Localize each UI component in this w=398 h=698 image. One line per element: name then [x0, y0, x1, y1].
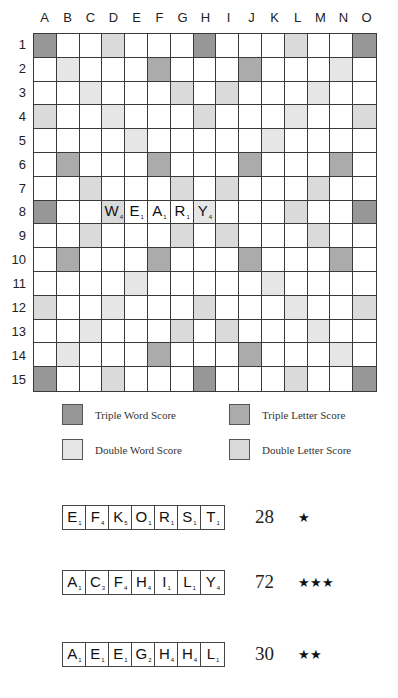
board-square-c4[interactable] [80, 105, 103, 129]
board-square-c3[interactable] [80, 82, 103, 106]
board-square-h4[interactable] [194, 105, 217, 129]
board-square-m2[interactable] [308, 58, 331, 82]
board-square-f12[interactable] [148, 296, 171, 320]
board-square-e10[interactable] [125, 248, 148, 272]
board-square-l7[interactable] [285, 177, 308, 201]
board-square-b1[interactable] [57, 34, 80, 58]
board-square-f2[interactable] [148, 58, 171, 82]
board-square-l2[interactable] [285, 58, 308, 82]
rack-tile[interactable]: T1 [201, 506, 224, 529]
board-square-k12[interactable] [262, 296, 285, 320]
board-square-j13[interactable] [239, 320, 262, 344]
board-square-m12[interactable] [308, 296, 331, 320]
board-square-m1[interactable] [308, 34, 331, 58]
board-square-l3[interactable] [285, 82, 308, 106]
board-square-d1[interactable] [102, 34, 125, 58]
board-square-d15[interactable] [102, 367, 125, 391]
board-square-k14[interactable] [262, 343, 285, 367]
board-square-e1[interactable] [125, 34, 148, 58]
board-square-n15[interactable] [330, 367, 353, 391]
board-square-d3[interactable] [102, 82, 125, 106]
rack-tile[interactable]: L1 [178, 571, 201, 594]
board-square-a5[interactable] [34, 129, 57, 153]
board-square-d4[interactable] [102, 105, 125, 129]
board-square-f13[interactable] [148, 320, 171, 344]
board-square-m3[interactable] [308, 82, 331, 106]
board-square-c13[interactable] [80, 320, 103, 344]
rack-tile[interactable]: H4 [178, 643, 201, 666]
rack-tile[interactable]: E1 [86, 643, 109, 666]
board-square-k9[interactable] [262, 224, 285, 248]
board-square-i6[interactable] [216, 153, 239, 177]
board-square-d9[interactable] [102, 224, 125, 248]
board-square-i7[interactable] [216, 177, 239, 201]
board-square-j1[interactable] [239, 34, 262, 58]
board-square-k1[interactable] [262, 34, 285, 58]
board-square-j11[interactable] [239, 272, 262, 296]
board-square-e2[interactable] [125, 58, 148, 82]
board-square-h8[interactable]: Y4 [194, 201, 217, 225]
rack-tile[interactable]: A1 [63, 643, 86, 666]
board-square-o5[interactable] [353, 129, 376, 153]
board-square-g2[interactable] [171, 58, 194, 82]
board-square-n13[interactable] [330, 320, 353, 344]
board-square-i13[interactable] [216, 320, 239, 344]
board-square-f6[interactable] [148, 153, 171, 177]
board-square-g7[interactable] [171, 177, 194, 201]
rack-tile[interactable]: E1 [63, 506, 86, 529]
board-square-a7[interactable] [34, 177, 57, 201]
board-square-g15[interactable] [171, 367, 194, 391]
board-square-j15[interactable] [239, 367, 262, 391]
rack-tile[interactable]: H4 [132, 571, 155, 594]
board-square-a11[interactable] [34, 272, 57, 296]
board-square-a10[interactable] [34, 248, 57, 272]
board-square-k10[interactable] [262, 248, 285, 272]
board-square-g8[interactable]: R1 [171, 201, 194, 225]
board-square-k15[interactable] [262, 367, 285, 391]
board-square-c1[interactable] [80, 34, 103, 58]
board-square-d7[interactable] [102, 177, 125, 201]
board-square-g12[interactable] [171, 296, 194, 320]
board-square-n11[interactable] [330, 272, 353, 296]
board-square-o4[interactable] [353, 105, 376, 129]
board-square-k7[interactable] [262, 177, 285, 201]
board-square-h10[interactable] [194, 248, 217, 272]
board-square-a15[interactable] [34, 367, 57, 391]
board-square-g9[interactable] [171, 224, 194, 248]
board-square-j7[interactable] [239, 177, 262, 201]
board-square-b12[interactable] [57, 296, 80, 320]
board-square-o3[interactable] [353, 82, 376, 106]
board-square-n8[interactable] [330, 201, 353, 225]
rack-tile[interactable]: R1 [155, 506, 178, 529]
board-square-g6[interactable] [171, 153, 194, 177]
board-square-m5[interactable] [308, 129, 331, 153]
board-square-o7[interactable] [353, 177, 376, 201]
rack-tile[interactable]: S1 [178, 506, 201, 529]
board-square-i4[interactable] [216, 105, 239, 129]
rack-tile[interactable]: C3 [86, 571, 109, 594]
board-square-h12[interactable] [194, 296, 217, 320]
board-square-c14[interactable] [80, 343, 103, 367]
board-square-c12[interactable] [80, 296, 103, 320]
rack-tile[interactable]: F4 [86, 506, 109, 529]
board-square-m14[interactable] [308, 343, 331, 367]
rack-tile[interactable]: Y4 [201, 571, 224, 594]
board-square-o8[interactable] [353, 201, 376, 225]
board-square-h9[interactable] [194, 224, 217, 248]
board-square-h1[interactable] [194, 34, 217, 58]
board-square-n12[interactable] [330, 296, 353, 320]
board-square-d6[interactable] [102, 153, 125, 177]
rack-tile[interactable]: A1 [63, 571, 86, 594]
board-square-i3[interactable] [216, 82, 239, 106]
board-square-l15[interactable] [285, 367, 308, 391]
board-square-j12[interactable] [239, 296, 262, 320]
board-square-m7[interactable] [308, 177, 331, 201]
board-square-j9[interactable] [239, 224, 262, 248]
board-square-o12[interactable] [353, 296, 376, 320]
board-square-j10[interactable] [239, 248, 262, 272]
board-square-c10[interactable] [80, 248, 103, 272]
board-square-f9[interactable] [148, 224, 171, 248]
board-square-l9[interactable] [285, 224, 308, 248]
board-square-m4[interactable] [308, 105, 331, 129]
board-square-k8[interactable] [262, 201, 285, 225]
